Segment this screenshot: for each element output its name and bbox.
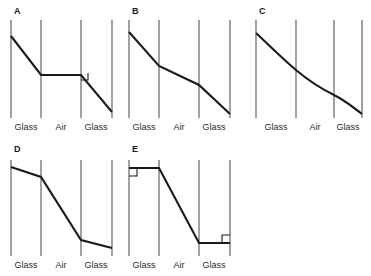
ray-path-a: [11, 36, 112, 112]
region-label-2: Glass: [202, 260, 226, 270]
region-label-1: Air: [56, 260, 67, 270]
right-angle-marker-1: [129, 168, 137, 176]
region-label-2: Glass: [202, 122, 226, 132]
panel-letter-d: D: [14, 144, 21, 154]
ray-diagram-figure: AGlassAirGlassBGlassAirGlassCGlassAirGla…: [0, 0, 371, 276]
region-label-0: Glass: [14, 122, 38, 132]
ray-path-c: [256, 33, 362, 114]
panel-e: EGlassAirGlass: [129, 144, 230, 270]
region-label-2: Glass: [84, 260, 108, 270]
region-label-1: Air: [174, 122, 185, 132]
panels-group: AGlassAirGlassBGlassAirGlassCGlassAirGla…: [11, 6, 362, 270]
region-label-1: Air: [174, 260, 185, 270]
region-label-1: Air: [310, 122, 321, 132]
right-angle-marker-2: [222, 235, 230, 243]
region-label-2: Glass: [84, 122, 108, 132]
region-label-0: Glass: [264, 122, 288, 132]
panel-d: DGlassAirGlass: [11, 144, 112, 270]
panel-c: CGlassAirGlass: [256, 6, 362, 132]
ray-path-b: [129, 32, 230, 114]
panel-letter-a: A: [14, 6, 21, 16]
panel-letter-e: E: [132, 144, 138, 154]
panel-a: AGlassAirGlass: [11, 6, 112, 132]
panel-letter-b: B: [132, 6, 139, 16]
panel-b: BGlassAirGlass: [129, 6, 230, 132]
ray-path-d: [11, 167, 112, 248]
region-label-2: Glass: [336, 122, 360, 132]
region-label-0: Glass: [132, 260, 156, 270]
region-label-1: Air: [56, 122, 67, 132]
ray-path-e: [129, 168, 230, 243]
region-label-0: Glass: [132, 122, 156, 132]
panel-letter-c: C: [259, 6, 266, 16]
region-label-0: Glass: [14, 260, 38, 270]
